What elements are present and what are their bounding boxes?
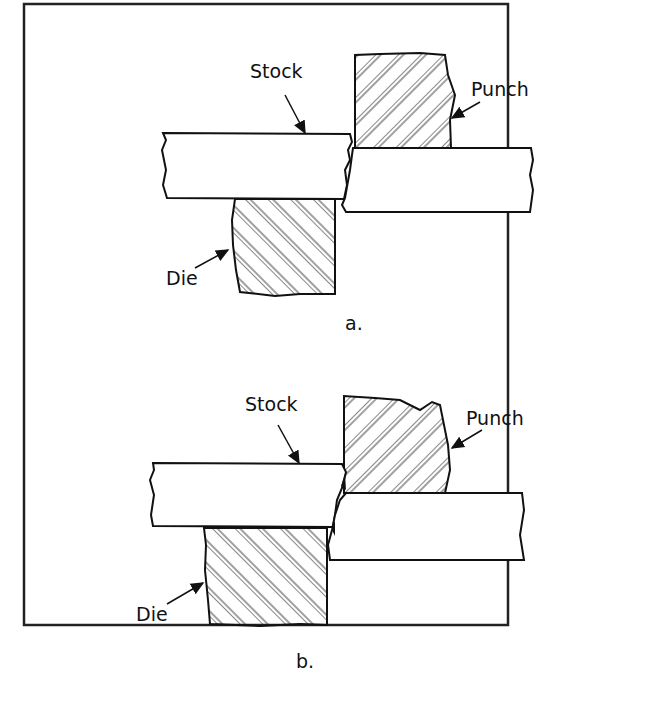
- punch-b: [344, 396, 450, 493]
- stock-left-b: [150, 463, 346, 527]
- stock-left-a: [162, 133, 352, 199]
- panel-b: [150, 396, 524, 626]
- caption-a: a.: [345, 312, 363, 334]
- stock-right-b: [328, 493, 524, 560]
- stock-arrow-b: [278, 425, 299, 463]
- die-arrow-b: [167, 583, 203, 604]
- punch-arrow-b: [452, 430, 482, 448]
- stock-right-a: [342, 148, 533, 212]
- die-a: [232, 199, 335, 296]
- caption-b: b.: [296, 650, 314, 672]
- stock-label-b: Stock: [245, 393, 298, 415]
- punch-a: [355, 53, 455, 148]
- stock-arrow-a: [285, 95, 305, 133]
- punch-arrow-a: [452, 102, 480, 118]
- punch-label-b: Punch: [466, 407, 524, 429]
- die-label-a: Die: [166, 267, 198, 289]
- stock-label-a: Stock: [250, 60, 303, 82]
- die-b: [204, 528, 327, 626]
- die-label-b: Die: [136, 603, 168, 625]
- die-arrow-a: [195, 250, 228, 268]
- punch-label-a: Punch: [471, 78, 529, 100]
- punch-die-diagram: [0, 0, 665, 718]
